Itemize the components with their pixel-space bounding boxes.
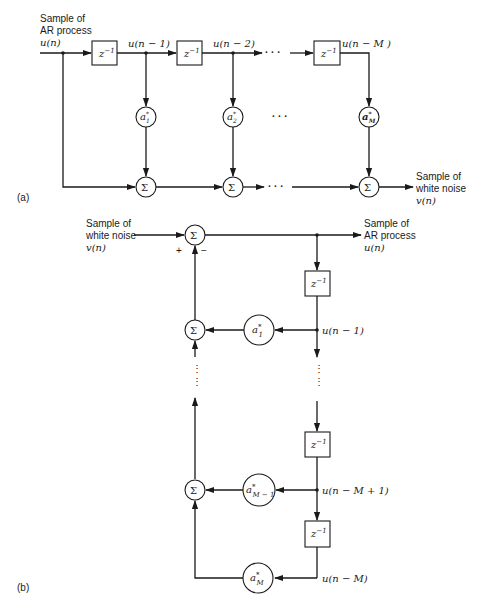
- part-a-input-label-1: Sample of: [40, 13, 85, 24]
- summer-b2-label: Σ: [190, 485, 197, 496]
- tap-label-1: u(n − 1): [128, 38, 170, 49]
- ellipsis: · · ·: [268, 181, 284, 192]
- part-a-output-label-2: white noise: [415, 183, 466, 194]
- part-b-input-signal: v(n): [86, 242, 106, 253]
- part-b-generator: Sample of white noise v(n) Σ + − Sample …: [17, 218, 416, 593]
- bypass-line: [63, 53, 135, 187]
- summer-1-label: Σ: [141, 182, 148, 193]
- summer-b1-label: Σ: [190, 325, 197, 336]
- minus-sign: −: [201, 245, 207, 256]
- tap-label-b3: u(n − M): [322, 573, 368, 584]
- part-b-caption: (b): [17, 582, 29, 593]
- plus-sign: +: [176, 245, 182, 256]
- tap-label-m: u(n − M ): [342, 38, 391, 49]
- part-a-input-label-2: AR process: [40, 25, 92, 36]
- part-b-output-label-1: Sample of: [364, 218, 409, 229]
- vdots: ⋮: [314, 376, 324, 387]
- part-a-analyzer: Sample of AR process u(n) z−1 u(n − 1) z…: [17, 13, 466, 206]
- ar-process-diagram: Sample of AR process u(n) z−1 u(n − 1) z…: [0, 0, 484, 609]
- coefficient-a1-label: a*1: [140, 110, 150, 124]
- part-b-output-signal: u(n): [364, 242, 385, 253]
- vdots: ⋮: [314, 363, 324, 374]
- part-a-caption: (a): [17, 192, 29, 203]
- vdots: ⋮: [192, 363, 202, 374]
- ellipsis: · · ·: [272, 111, 288, 122]
- part-b-output-label-2: AR process: [364, 230, 416, 241]
- part-a-line-m: [340, 53, 369, 106]
- ellipsis: · · ·: [265, 47, 281, 58]
- summer-m-label: Σ: [364, 182, 371, 193]
- part-b-input-label-2: white noise: [85, 230, 136, 241]
- coef-out-line-3: [195, 501, 243, 578]
- summer-main-label: Σ: [190, 230, 197, 241]
- tap-label-b1: u(n − 1): [322, 325, 364, 336]
- part-b-input-label-1: Sample of: [86, 218, 131, 229]
- summer-2-label: Σ: [228, 182, 235, 193]
- vdots: ⋮: [192, 376, 202, 387]
- part-a-output-label-1: Sample of: [416, 171, 461, 182]
- part-a-input-signal: u(n): [40, 37, 61, 48]
- part-a-output-signal: v(n): [416, 195, 436, 206]
- coefficient-a2-label: a*2: [227, 110, 237, 124]
- tap-label-2: u(n − 2): [213, 38, 255, 49]
- tap-label-b2: u(n − M + 1): [322, 485, 389, 496]
